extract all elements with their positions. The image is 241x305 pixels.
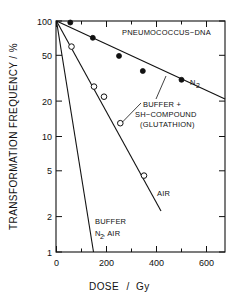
data-point <box>140 69 145 74</box>
y-tick-5: 5 <box>47 166 52 176</box>
air-label-text: AIR <box>157 189 170 198</box>
data-point <box>179 77 184 82</box>
y-tick-2: 2 <box>47 212 52 222</box>
x-tick-200: 200 <box>99 258 114 268</box>
y-tick-10: 10 <box>42 132 52 142</box>
n2-label-subscript: 2 <box>196 82 200 89</box>
data-point <box>101 94 107 100</box>
data-point <box>117 53 122 58</box>
data-point <box>91 84 97 90</box>
x-tick-400: 400 <box>149 258 164 268</box>
y-tick-50: 50 <box>42 51 52 61</box>
transformation-frequency-vs-dose-chart: 100 50 20 10 5 2 1 0 200 400 600 TRANSFO… <box>0 0 241 305</box>
buffer-air-text: , AIR <box>103 229 121 238</box>
x-axis-title-dose: DOSE <box>89 281 119 292</box>
data-point <box>141 173 147 179</box>
y-tick-1: 1 <box>47 248 52 258</box>
y-tick-20: 20 <box>42 97 52 107</box>
x-axis-title-gy: Gy <box>136 281 150 292</box>
buffer-text: BUFFER <box>95 217 127 226</box>
n2-label-text: N <box>190 78 196 87</box>
x-tick-0: 0 <box>54 258 59 268</box>
sh-compound-text: SH−COMPOUND <box>135 110 197 119</box>
data-point <box>118 120 124 126</box>
buffer-plus-text: BUFFER + <box>143 100 181 109</box>
glutathion-text: (GLUTATHION) <box>140 120 195 129</box>
data-point <box>68 20 73 25</box>
data-point <box>90 35 95 40</box>
data-point <box>69 44 75 50</box>
x-axis-title-slash: / <box>126 281 129 292</box>
y-tick-100: 100 <box>37 17 52 27</box>
chart-title: PNEUMOCOCCUS−DNA <box>122 28 211 37</box>
x-tick-600: 600 <box>199 258 214 268</box>
air-series-label: AIR <box>157 189 170 198</box>
y-axis-title: TRANSFORMATION FREQUENCY / % <box>8 43 19 230</box>
